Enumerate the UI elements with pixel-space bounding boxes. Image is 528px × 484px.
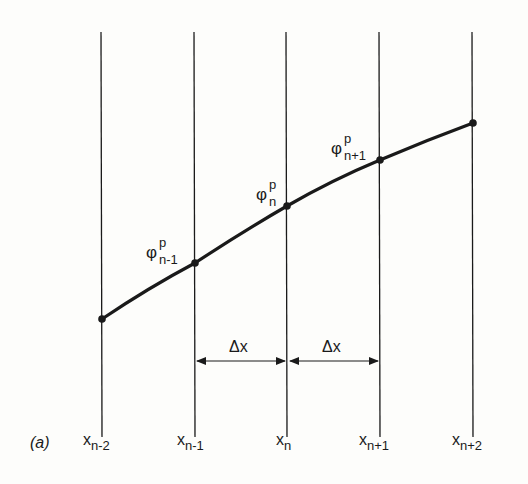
x-symbol: x — [276, 431, 284, 448]
subscript: n+2 — [460, 438, 482, 453]
phi-label-n+1: φ p n+1 — [331, 140, 342, 157]
x-symbol: x — [83, 431, 91, 448]
delta-x-label-1: Δx — [229, 338, 248, 356]
subscript: n+1 — [344, 149, 366, 162]
phi-symbol: φ — [331, 139, 342, 158]
x-symbol: x — [359, 431, 367, 448]
delta-x-arrow-1 — [196, 357, 286, 365]
subscript: n-1 — [185, 438, 204, 453]
subscript: n-2 — [91, 438, 110, 453]
grid-line-n+2 — [472, 32, 473, 437]
subscript: n+1 — [367, 438, 389, 453]
delta-x-arrow-2 — [289, 357, 379, 365]
x-symbol: x — [177, 431, 185, 448]
grid-line-n-1 — [194, 32, 195, 437]
superscript: p — [269, 178, 276, 191]
x-label-n-2: xn-2 — [83, 432, 110, 452]
phi-symbol: φ — [256, 185, 267, 204]
superscript: p — [344, 132, 351, 145]
x-symbol: x — [452, 431, 460, 448]
x-label-n+1: xn+1 — [359, 432, 389, 452]
phi-symbol: φ — [146, 243, 157, 262]
panel-label: (a) — [30, 434, 50, 452]
subscript: n-1 — [159, 253, 178, 266]
x-label-n+2: xn+2 — [452, 432, 482, 452]
phi-label-n-1: φ p n-1 — [146, 244, 157, 261]
grid-points — [98, 119, 477, 323]
subscript: n — [269, 195, 276, 208]
grid-line-n-2 — [101, 32, 102, 437]
finite-difference-grid-diagram — [0, 0, 528, 484]
superscript: p — [159, 236, 166, 249]
x-label-n-1: xn-1 — [177, 432, 204, 452]
phi-label-n: φ p n — [256, 186, 267, 203]
delta-x-label-2: Δx — [322, 338, 341, 356]
grid-line-n — [286, 32, 287, 437]
grid-line-n+1 — [379, 32, 380, 437]
phi-curve — [102, 123, 473, 319]
subscript: n — [284, 438, 291, 453]
x-label-n: xn — [276, 432, 291, 452]
